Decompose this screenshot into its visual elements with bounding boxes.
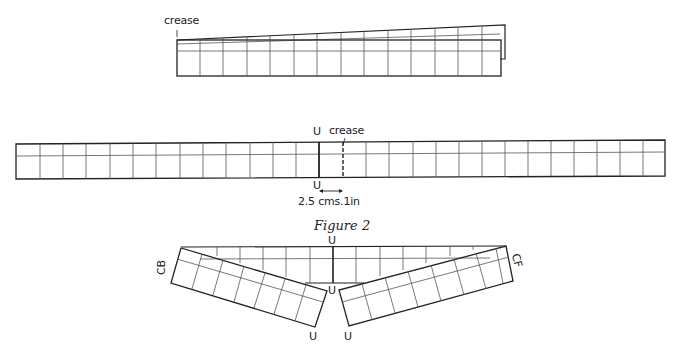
crease-label-middle: crease [329,125,364,136]
cf-label: CF [510,253,524,269]
top-folded-strip [177,25,505,76]
u-label-top: U [313,126,321,137]
u-label-fig-top: U [328,235,336,246]
bottom-collar-shape [171,246,513,327]
figure-caption: Figure 2 [314,219,370,232]
u-label-fig-right: U [344,331,352,342]
u-label-bottom: U [313,180,321,191]
u-label-fig-center: U [328,285,336,296]
diagram-canvas [0,0,676,353]
crease-label-top: crease [164,15,199,26]
middle-strip [16,138,665,193]
measure-label: 2.5 cms.1in [298,196,360,207]
cb-label: CB [156,260,167,275]
u-label-fig-left: U [309,331,317,342]
